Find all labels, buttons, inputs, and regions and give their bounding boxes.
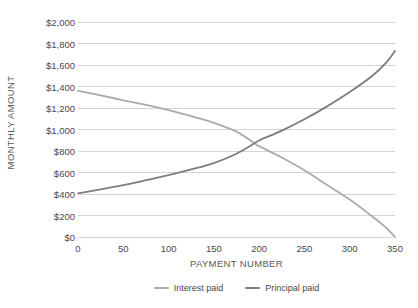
amortization-line-chart: MONTHLY AMOUNT $0$200$400$600$800$1,000$…: [0, 0, 418, 308]
x-tick-label: 100: [161, 243, 177, 254]
legend-item[interactable]: Principal paid: [245, 283, 319, 293]
legend-line-icon: [245, 287, 260, 289]
x-tick-label: 200: [251, 243, 267, 254]
chart-legend: Interest paidPrincipal paid: [78, 283, 395, 293]
x-tick-label: 0: [75, 243, 80, 254]
x-tick-label: 150: [206, 243, 222, 254]
x-tick-label: 350: [387, 243, 403, 254]
x-tick-label: 50: [118, 243, 129, 254]
x-tick-label: 300: [342, 243, 358, 254]
legend-item[interactable]: Interest paid: [154, 283, 224, 293]
legend-item-label: Principal paid: [265, 283, 319, 293]
x-axis-title: PAYMENT NUMBER: [78, 258, 395, 269]
x-tick-label: 250: [296, 243, 312, 254]
legend-line-icon: [154, 287, 169, 289]
legend-item-label: Interest paid: [174, 283, 224, 293]
